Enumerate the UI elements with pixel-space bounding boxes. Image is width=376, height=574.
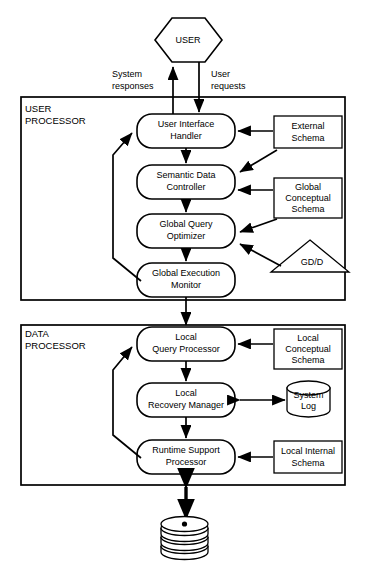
- global-execution-monitor-line1: Global Execution: [152, 268, 220, 278]
- gd-d-node[interactable]: GD/D: [271, 240, 349, 272]
- user-processor-label-line2: PROCESSOR: [25, 115, 86, 126]
- user-processor-label-line1: USER: [25, 103, 52, 114]
- runtime-support-processor-line1: Runtime Support: [152, 445, 220, 455]
- global-query-optimizer-line1: Global Query: [159, 219, 213, 229]
- gd-d-to-gqo-arrow: [240, 244, 281, 266]
- runtime-support-processor-node[interactable]: Runtime Support Processor: [137, 440, 235, 474]
- global-conceptual-schema-line2: Conceptual: [285, 193, 331, 203]
- external-schema-to-sdc-arrow: [240, 150, 277, 172]
- global-query-optimizer-node[interactable]: Global Query Optimizer: [137, 214, 235, 248]
- user-requests-label: User requests: [211, 69, 246, 91]
- local-recovery-manager-line2: Recovery Manager: [148, 400, 224, 410]
- system-log-line1: System: [293, 390, 323, 400]
- local-recovery-manager-node[interactable]: Local Recovery Manager: [137, 383, 235, 417]
- semantic-data-controller-line1: Semantic Data: [156, 170, 215, 180]
- local-query-processor-line2: Query Processor: [152, 344, 220, 354]
- external-schema-node[interactable]: External Schema: [274, 116, 342, 148]
- runtime-support-processor-line2: Processor: [166, 457, 207, 467]
- data-processor-frame-label: DATA PROCESSOR: [25, 328, 86, 351]
- gem-to-uih-feedback-arrow: [113, 133, 141, 281]
- user-actor: USER: [155, 18, 222, 62]
- global-query-optimizer-line2: Optimizer: [167, 231, 206, 241]
- user-requests-line2: requests: [211, 81, 246, 91]
- diagram-canvas: USER System responses User requests USER…: [0, 0, 376, 574]
- local-database-node[interactable]: [161, 517, 208, 560]
- user-interface-handler-line2: Handler: [170, 131, 202, 141]
- user-interface-handler-node[interactable]: User Interface Handler: [137, 114, 235, 148]
- external-schema-line2: Schema: [291, 133, 324, 143]
- local-internal-schema-node[interactable]: Local Internal Schema: [274, 441, 342, 473]
- local-query-processor-node[interactable]: Local Query Processor: [137, 327, 235, 361]
- local-conceptual-schema-line2: Conceptual: [285, 344, 331, 354]
- local-query-processor-line1: Local: [175, 332, 197, 342]
- local-conceptual-schema-line1: Local: [297, 333, 319, 343]
- user-label: USER: [175, 35, 201, 45]
- system-log-line2: Log: [301, 401, 316, 411]
- user-requests-line1: User: [211, 69, 230, 79]
- global-conceptual-schema-line1: Global: [295, 182, 321, 192]
- data-processor-label-line1: DATA: [25, 328, 50, 339]
- system-responses-label: System responses: [112, 69, 154, 91]
- global-conceptual-schema-line3: Schema: [291, 204, 324, 214]
- disk-spindle-dot: [182, 521, 187, 526]
- external-schema-line1: External: [291, 121, 324, 131]
- user-processor-frame-label: USER PROCESSOR: [25, 103, 86, 126]
- semantic-data-controller-node[interactable]: Semantic Data Controller: [137, 165, 235, 199]
- user-interface-handler-line1: User Interface: [158, 119, 215, 129]
- global-execution-monitor-node[interactable]: Global Execution Monitor: [137, 263, 235, 297]
- local-conceptual-schema-line3: Schema: [291, 355, 324, 365]
- global-conceptual-schema-node[interactable]: Global Conceptual Schema: [274, 178, 342, 218]
- local-conceptual-schema-node[interactable]: Local Conceptual Schema: [274, 329, 342, 369]
- local-internal-schema-line2: Schema: [291, 458, 324, 468]
- semantic-data-controller-line2: Controller: [166, 182, 205, 192]
- local-recovery-manager-line1: Local: [175, 388, 197, 398]
- data-processor-label-line2: PROCESSOR: [25, 340, 86, 351]
- system-responses-line2: responses: [112, 81, 154, 91]
- local-internal-schema-line1: Local Internal: [281, 446, 335, 456]
- system-responses-line1: System: [112, 69, 142, 79]
- system-log-node[interactable]: System Log: [287, 381, 330, 417]
- global-execution-monitor-line2: Monitor: [171, 280, 201, 290]
- gcs-to-gqo-arrow: [240, 219, 277, 232]
- gd-d-label: GD/D: [301, 257, 324, 267]
- architecture-diagram: USER System responses User requests USER…: [0, 0, 376, 574]
